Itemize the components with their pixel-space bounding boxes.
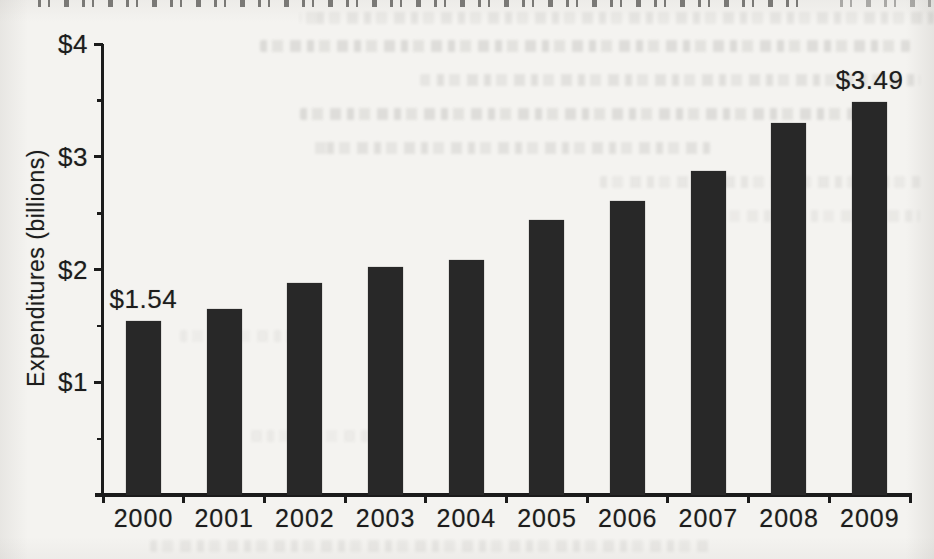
x-tick-label-2008: 2008 bbox=[749, 505, 830, 531]
x-tick bbox=[263, 495, 266, 503]
expenditures-bar-chart: Expenditures (billions) $1$2$3$4 2000200… bbox=[0, 0, 934, 559]
x-tick bbox=[102, 495, 105, 503]
x-tick bbox=[424, 495, 427, 503]
x-tick-label-2002: 2002 bbox=[264, 505, 345, 531]
y-minor-tick bbox=[97, 99, 103, 102]
bar-2007 bbox=[691, 171, 726, 495]
x-tick-label-2006: 2006 bbox=[587, 505, 668, 531]
scanned-textbook-page: Expenditures (billions) $1$2$3$4 2000200… bbox=[0, 0, 934, 559]
bar-value-label-2009: $3.49 bbox=[815, 66, 925, 94]
y-minor-tick bbox=[97, 438, 103, 441]
x-tick bbox=[505, 495, 508, 503]
y-tick-label: $4 bbox=[34, 30, 88, 58]
bar-2008 bbox=[771, 123, 806, 495]
x-tick-label-2009: 2009 bbox=[829, 505, 910, 531]
bar-value-label-2000: $1.54 bbox=[88, 285, 198, 313]
y-tick-label: $1 bbox=[34, 368, 88, 396]
x-tick-label-2007: 2007 bbox=[668, 505, 749, 531]
bar-2006 bbox=[610, 201, 645, 495]
y-tick-label: $2 bbox=[34, 256, 88, 284]
bar-2005 bbox=[529, 220, 564, 495]
y-minor-tick bbox=[97, 212, 103, 215]
x-tick-label-2004: 2004 bbox=[426, 505, 507, 531]
x-tick bbox=[666, 495, 669, 503]
bar-2003 bbox=[368, 267, 403, 495]
y-major-tick bbox=[94, 268, 103, 271]
x-tick bbox=[344, 495, 347, 503]
y-major-tick bbox=[94, 155, 103, 158]
x-tick bbox=[182, 495, 185, 503]
bar-2004 bbox=[449, 260, 484, 495]
x-tick-label-2000: 2000 bbox=[103, 505, 184, 531]
bar-2009 bbox=[852, 102, 887, 495]
x-tick-label-2003: 2003 bbox=[345, 505, 426, 531]
x-tick-label-2001: 2001 bbox=[184, 505, 265, 531]
x-tick bbox=[909, 495, 912, 503]
bar-2002 bbox=[287, 283, 322, 495]
x-tick bbox=[747, 495, 750, 503]
bar-2001 bbox=[207, 309, 242, 495]
bar-2000 bbox=[126, 321, 161, 495]
x-tick bbox=[586, 495, 589, 503]
y-major-tick bbox=[94, 43, 103, 46]
x-tick bbox=[828, 495, 831, 503]
y-major-tick bbox=[94, 381, 103, 384]
x-tick-label-2005: 2005 bbox=[507, 505, 588, 531]
y-minor-tick bbox=[97, 325, 103, 328]
y-tick-label: $3 bbox=[34, 143, 88, 171]
